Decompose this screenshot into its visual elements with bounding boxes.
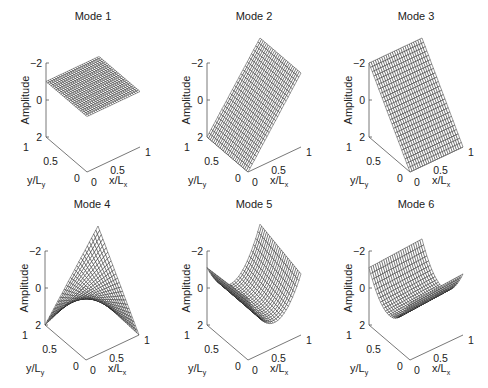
subplot-title: Mode 4 <box>74 198 111 210</box>
x-axis-label: x/Lx <box>109 174 128 188</box>
y-tick-label: 0.5 <box>43 155 58 167</box>
x-tick-label: 0 <box>90 364 96 376</box>
x-tick-label: 1 <box>468 334 474 346</box>
y-tick-label: 0.5 <box>366 343 381 355</box>
y-tick-label: 0 <box>235 172 241 184</box>
z-axis-label: Amplitude <box>342 76 354 125</box>
z-tick-label: 0 <box>197 282 203 294</box>
x-axis-label: x/Lx <box>270 174 289 188</box>
y-axis-label: y/Ly <box>188 362 207 377</box>
z-tick-label: 2 <box>197 131 203 143</box>
y-tick-label: 0 <box>73 360 79 372</box>
z-axis-label: Amplitude <box>180 76 192 125</box>
y-axis-label: y/Ly <box>27 174 46 189</box>
subplot-5: Mode 5−20210.5000.51Amplitudey/Lyx/Lx <box>180 198 312 377</box>
y-tick-label: 0.5 <box>204 343 219 355</box>
surface-mesh <box>369 38 463 172</box>
z-tick-label: 0 <box>36 94 42 106</box>
z-tick-label: −2 <box>30 57 42 69</box>
x-tick-label: 1 <box>468 146 474 158</box>
x-tick-label: 0 <box>414 364 420 376</box>
z-axis-label: Amplitude <box>19 76 31 125</box>
y-tick-label: 1 <box>184 141 190 153</box>
subplot-2: Mode 2−20210.5000.51Amplitudey/Lyx/Lx <box>180 10 312 189</box>
x-tick-label: 1 <box>145 146 151 158</box>
subplot-6: Mode 6−20210.5000.51Amplitudey/Lyx/Lx <box>342 198 474 377</box>
x-tick-label: 1 <box>306 146 312 158</box>
subplot-title: Mode 1 <box>75 10 112 22</box>
mode-shapes-figure: Mode 1−20210.5000.51Amplitudey/Lyx/LxMod… <box>0 0 488 388</box>
x-tick-label: 1 <box>306 334 312 346</box>
y-tick-label: 0.5 <box>204 155 219 167</box>
subplot-title: Mode 6 <box>398 198 435 210</box>
subplot-title: Mode 3 <box>398 10 435 22</box>
z-tick-label: 2 <box>359 131 365 143</box>
subplot-1: Mode 1−20210.5000.51Amplitudey/Lyx/Lx <box>19 10 151 189</box>
z-tick-label: −2 <box>191 245 203 257</box>
z-tick-label: 2 <box>36 131 42 143</box>
y-tick-label: 1 <box>23 141 29 153</box>
y-axis-label: y/Ly <box>350 174 369 189</box>
surface-mesh <box>207 224 301 323</box>
x-tick-label: 1 <box>144 334 150 346</box>
z-tick-label: 0 <box>35 282 41 294</box>
x-tick-label: 0 <box>91 176 97 188</box>
surface-mesh <box>45 226 139 335</box>
z-axis-label: Amplitude <box>180 264 192 313</box>
subplot-4: Mode 4−20210.5000.51Amplitudey/Lyx/Lx <box>18 198 150 377</box>
surface-mesh <box>207 38 301 172</box>
y-tick-label: 1 <box>346 141 352 153</box>
x-axis-label: x/Lx <box>108 362 127 376</box>
z-tick-label: 0 <box>359 282 365 294</box>
z-tick-label: −2 <box>191 57 203 69</box>
y-axis-label: y/Ly <box>26 362 45 377</box>
y-axis-label: y/Ly <box>188 174 207 189</box>
y-tick-label: 1 <box>184 329 190 341</box>
surface-mesh <box>369 239 463 318</box>
y-tick-label: 1 <box>22 329 28 341</box>
subplot-3: Mode 3−20210.5000.51Amplitudey/Lyx/Lx <box>342 10 474 189</box>
x-axis-label: x/Lx <box>432 362 451 376</box>
surface-mesh <box>46 57 140 117</box>
z-tick-label: 2 <box>359 319 365 331</box>
z-tick-label: −2 <box>353 245 365 257</box>
z-axis-label: Amplitude <box>18 264 30 313</box>
y-tick-label: 0 <box>397 172 403 184</box>
y-tick-label: 1 <box>346 329 352 341</box>
z-tick-label: −2 <box>29 245 41 257</box>
x-axis-label: x/Lx <box>270 362 289 376</box>
z-axis-label: Amplitude <box>342 264 354 313</box>
subplot-title: Mode 5 <box>236 198 273 210</box>
y-tick-label: 0 <box>235 360 241 372</box>
x-tick-label: 0 <box>252 364 258 376</box>
y-axis-label: y/Ly <box>350 362 369 377</box>
x-axis-label: x/Lx <box>432 174 451 188</box>
y-tick-label: 0 <box>397 360 403 372</box>
y-tick-label: 0.5 <box>42 343 57 355</box>
x-tick-label: 0 <box>252 176 258 188</box>
y-tick-label: 0.5 <box>366 155 381 167</box>
z-tick-label: 0 <box>197 94 203 106</box>
z-tick-label: 2 <box>197 319 203 331</box>
subplot-title: Mode 2 <box>236 10 273 22</box>
z-tick-label: 0 <box>359 94 365 106</box>
z-tick-label: −2 <box>353 57 365 69</box>
x-tick-label: 0 <box>414 176 420 188</box>
y-tick-label: 0 <box>74 172 80 184</box>
z-tick-label: 2 <box>35 319 41 331</box>
